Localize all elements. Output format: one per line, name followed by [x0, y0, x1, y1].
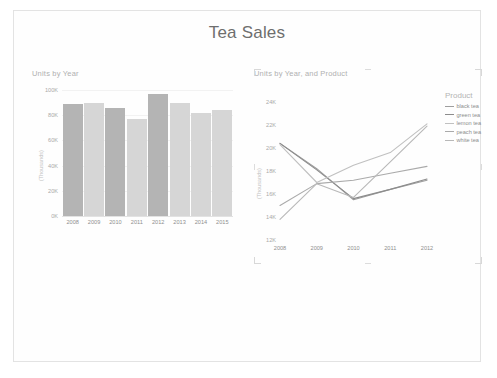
bar[interactable]	[148, 94, 168, 216]
bar[interactable]	[170, 103, 190, 216]
bar-chart-x-tick-label: 2009	[83, 219, 104, 225]
page-title: Tea Sales	[14, 23, 480, 43]
legend-item[interactable]: green tea	[445, 112, 481, 118]
legend-title: Product	[445, 91, 481, 100]
bar-slot[interactable]	[190, 90, 211, 216]
line-chart-title: Units by Year, and Product	[254, 69, 482, 78]
report-canvas: Tea Sales Units by Year (Thousands)0K20K…	[13, 10, 481, 362]
bar-chart-y-tick-label: 20K	[32, 188, 58, 194]
resize-handle-top[interactable]	[365, 69, 371, 70]
bar-chart-x-tick-label: 2010	[105, 219, 126, 225]
line-chart-x-tick-label: 2012	[409, 245, 446, 251]
bar-series	[62, 90, 233, 216]
legend-item-label: white tea	[457, 137, 479, 143]
bar-slot[interactable]	[148, 90, 169, 216]
resize-handle-right[interactable]	[481, 164, 482, 170]
bar-slot[interactable]	[212, 90, 233, 216]
bar[interactable]	[212, 110, 232, 216]
bar-chart-x-tick-label: 2014	[190, 219, 211, 225]
legend-item-label: black tea	[457, 103, 479, 109]
bar-chart-y-tick-label: 0K	[32, 213, 58, 219]
bar-slot[interactable]	[83, 90, 104, 216]
bar-chart-x-axis-labels: 20082009201020112012201320142015	[62, 219, 233, 225]
bar[interactable]	[191, 113, 211, 216]
legend[interactable]: Product black teagreen tealemon teapeach…	[445, 91, 481, 146]
line-series[interactable]	[280, 143, 427, 199]
bar-chart-plot-area[interactable]: (Thousands)0K20K40K60K80K100K20082009201…	[32, 84, 237, 232]
legend-item[interactable]: black tea	[445, 103, 481, 109]
bar-slot[interactable]	[62, 90, 83, 216]
legend-line-swatch-icon	[445, 123, 454, 124]
bar-chart-y-tick-label: 80K	[32, 112, 58, 118]
legend-line-swatch-icon	[445, 140, 454, 141]
legend-items[interactable]: black teagreen tealemon teapeach teawhit…	[445, 103, 481, 143]
legend-item-label: green tea	[457, 112, 481, 118]
line-chart-x-tick-label: 2008	[262, 245, 299, 251]
line-chart-x-tick-label: 2011	[372, 245, 409, 251]
bar[interactable]	[84, 103, 104, 216]
bar-chart-title: Units by Year	[32, 69, 237, 78]
legend-line-swatch-icon	[445, 131, 454, 132]
bar-chart-x-axis-line	[62, 216, 233, 217]
line-series-group	[254, 84, 439, 264]
line-series[interactable]	[280, 124, 427, 183]
legend-item-label: lemon tea	[457, 120, 482, 126]
line-chart-x-tick-label: 2010	[335, 245, 372, 251]
legend-item[interactable]: peach tea	[445, 129, 481, 135]
bar-chart-x-tick-label: 2008	[62, 219, 83, 225]
legend-item[interactable]: white tea	[445, 137, 481, 143]
bar[interactable]	[127, 119, 147, 216]
bar-chart-x-tick-label: 2015	[212, 219, 233, 225]
bar-chart-x-tick-label: 2011	[126, 219, 147, 225]
bar-chart-x-tick-label: 2012	[148, 219, 169, 225]
bar-chart-y-tick-label: 100K	[32, 87, 58, 93]
bar-chart-card[interactable]: Units by Year (Thousands)0K20K40K60K80K1…	[32, 69, 237, 234]
line-chart-card[interactable]: Units by Year, and Product (Thousands)12…	[254, 69, 482, 264]
bar[interactable]	[63, 104, 83, 216]
bar-slot[interactable]	[105, 90, 126, 216]
legend-item-label: peach tea	[457, 129, 482, 135]
bar-chart-x-tick-label: 2013	[169, 219, 190, 225]
bar-chart-y-tick-label: 60K	[32, 137, 58, 143]
bar[interactable]	[105, 108, 125, 216]
line-chart-plot-area[interactable]: (Thousands)12K14K16K18K20K22K24K20082009…	[254, 84, 439, 264]
legend-line-swatch-icon	[445, 114, 454, 115]
line-chart-x-tick-label: 2009	[298, 245, 335, 251]
bar-slot[interactable]	[126, 90, 147, 216]
legend-line-swatch-icon	[445, 106, 454, 107]
line-chart-x-axis-labels: 20082009201020112012	[262, 245, 446, 251]
crop-corner-bottom-right-icon	[475, 257, 482, 264]
line-series[interactable]	[280, 126, 427, 219]
bar-slot[interactable]	[169, 90, 190, 216]
legend-item[interactable]: lemon tea	[445, 120, 481, 126]
bar-chart-y-tick-label: 40K	[32, 163, 58, 169]
